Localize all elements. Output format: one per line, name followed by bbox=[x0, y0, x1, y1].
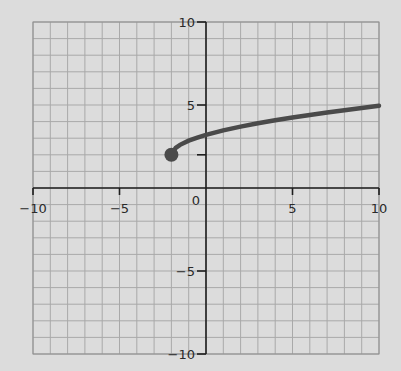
x-tick-label: 5 bbox=[288, 201, 296, 216]
origin-label: 0 bbox=[192, 193, 200, 208]
x-tick-label: 10 bbox=[371, 201, 388, 216]
x-tick-label: −10 bbox=[19, 201, 46, 216]
y-tick-label: −5 bbox=[176, 264, 195, 279]
graph-plot: −10−5510105−5−100 bbox=[0, 0, 401, 371]
x-tick-label: −5 bbox=[110, 201, 129, 216]
y-tick-label: −10 bbox=[168, 347, 195, 362]
closed-endpoint-dot bbox=[164, 148, 178, 162]
y-tick-label: 10 bbox=[178, 15, 195, 30]
y-tick-label: 5 bbox=[187, 98, 195, 113]
